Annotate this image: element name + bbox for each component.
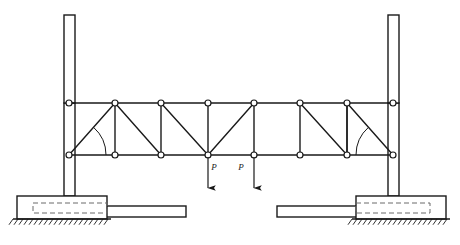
left-support-hatch-line	[89, 219, 93, 225]
truss-joint-top	[158, 100, 164, 106]
truss-joint-bottom	[390, 152, 396, 158]
right-support-hatch-line	[423, 219, 427, 225]
truss-joint-top	[344, 100, 350, 106]
truss-joint-bottom	[297, 152, 303, 158]
left-support-hatch-line	[9, 219, 13, 225]
right-support-hatch-line	[383, 219, 387, 225]
truss-joint-top	[390, 100, 396, 106]
truss-joint-bottom	[158, 152, 164, 158]
truss-joint-top	[251, 100, 257, 106]
truss-joint-top	[297, 100, 303, 106]
truss-joint-top	[205, 100, 211, 106]
right-support-hatch-line	[353, 219, 357, 225]
right-support-hatch-line	[428, 219, 432, 225]
left-support-hatch-line	[29, 219, 33, 225]
left-support-hatch-line	[79, 219, 83, 225]
left-support-hatch-line	[99, 219, 103, 225]
load-label-P: P	[210, 162, 217, 172]
truss-members-layer	[69, 103, 393, 155]
left-support-hatch-line	[74, 219, 78, 225]
truss-diagonal-member	[69, 103, 115, 155]
right-support-hatch-line	[388, 219, 392, 225]
right-support-hatch-line	[368, 219, 372, 225]
end-angle-arcs-layer	[94, 127, 369, 155]
left-support-hatch-line	[49, 219, 53, 225]
truss-diagonal-member	[115, 103, 161, 155]
truss-joint-top	[112, 100, 118, 106]
right-support-hatch-line	[363, 219, 367, 225]
right-support-hatch-line	[373, 219, 377, 225]
right-support-hatch-line	[393, 219, 397, 225]
right-support-hatch-line	[438, 219, 442, 225]
left-support-hatch-line	[19, 219, 23, 225]
right-support-hatch-line	[348, 219, 352, 225]
left-support-hatch-line	[94, 219, 98, 225]
truss-joint-bottom	[66, 152, 72, 158]
right-support-hatch-line	[358, 219, 362, 225]
truss-diagonal-member	[161, 103, 208, 155]
right-support-hatch-line	[378, 219, 382, 225]
truss-joint-bottom	[344, 152, 350, 158]
right-support-hatch-line	[403, 219, 407, 225]
left-support-hatch-line	[59, 219, 63, 225]
right-support-hatch-line	[418, 219, 422, 225]
right-column	[388, 15, 399, 103]
right-support-hatch-line	[408, 219, 412, 225]
left-support-hatch-line	[39, 219, 43, 225]
supports-layer	[9, 196, 450, 225]
right-support-block	[356, 196, 446, 219]
right-support-hatch-line	[443, 219, 447, 225]
truss-joint-top	[66, 100, 72, 106]
right-support-hatch-line	[398, 219, 402, 225]
left-column	[64, 15, 75, 103]
left-end-angle-arc	[94, 127, 106, 155]
load-label-P: P	[237, 162, 244, 172]
truss-figure: PP	[0, 0, 460, 245]
truss-diagram-svg: PP	[0, 0, 460, 245]
left-support-hatch-line	[24, 219, 28, 225]
load-arrows-layer: PP	[208, 157, 254, 188]
left-support-hatch-line	[14, 219, 18, 225]
truss-joint-bottom	[112, 152, 118, 158]
left-support-hatch-line	[54, 219, 58, 225]
right-column-lower	[388, 103, 399, 196]
right-support-hatch-line	[413, 219, 417, 225]
right-end-angle-arc	[356, 127, 368, 155]
left-support-hatch-line	[44, 219, 48, 225]
left-support-hatch-line	[34, 219, 38, 225]
right-support-hatch-line	[433, 219, 437, 225]
left-support-hatch-line	[64, 219, 68, 225]
left-support-arm	[103, 206, 186, 217]
truss-diagonal-member	[300, 103, 347, 155]
left-support-hatch-line	[84, 219, 88, 225]
truss-diagonal-member	[208, 103, 254, 155]
left-support-hatch-line	[69, 219, 73, 225]
right-support-arm	[277, 206, 360, 217]
left-support-hatch-line	[104, 219, 108, 225]
truss-diagonal-member	[347, 103, 393, 155]
left-support-block	[17, 196, 107, 219]
